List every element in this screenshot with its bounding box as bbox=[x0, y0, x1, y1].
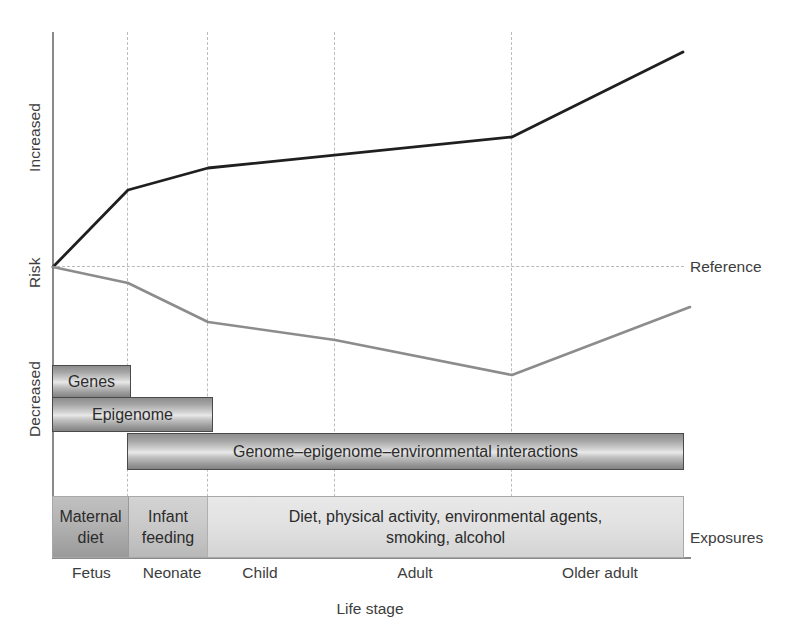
x-tick-adult: Adult bbox=[370, 564, 460, 582]
increased-risk-line bbox=[53, 52, 683, 267]
figure-canvas: Increased Risk Decreased Reference Expos… bbox=[0, 0, 792, 641]
x-axis-title: Life stage bbox=[0, 600, 740, 618]
x-tick-neonate: Neonate bbox=[131, 564, 213, 582]
x-tick-fetus: Fetus bbox=[52, 564, 131, 582]
exposure-cell-adult-exposures: Diet, physical activity, environmental a… bbox=[208, 497, 683, 557]
x-tick-child: Child bbox=[215, 564, 305, 582]
bar-genome-epigenome-environmental-interactions: Genome–epigenome–environmental interacti… bbox=[127, 433, 684, 470]
bar-genes: Genes bbox=[52, 365, 131, 398]
exposures-label: Exposures bbox=[690, 529, 763, 547]
y-axis-label-increased: Increased bbox=[26, 103, 44, 172]
exposures-band: Maternal diet Infant feeding Diet, physi… bbox=[52, 496, 684, 558]
y-axis-label-decreased: Decreased bbox=[26, 361, 44, 437]
exposure-cell-infant-feeding: Infant feeding bbox=[129, 497, 208, 557]
exposure-cell-maternal-diet: Maternal diet bbox=[53, 497, 129, 557]
reference-label: Reference bbox=[690, 258, 762, 276]
bar-epigenome: Epigenome bbox=[52, 397, 213, 432]
y-axis-label-risk: Risk bbox=[26, 257, 44, 288]
decreased-risk-line bbox=[53, 267, 690, 375]
x-tick-older-adult: Older adult bbox=[545, 564, 655, 582]
